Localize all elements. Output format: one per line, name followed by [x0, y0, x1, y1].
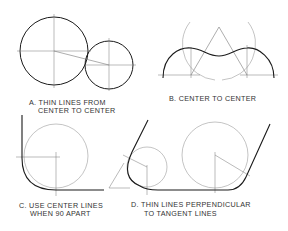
construction-arc-left [182, 22, 215, 80]
figure-a [17, 14, 136, 91]
center-to-apex-left [191, 27, 219, 75]
center-to-center-line [54, 51, 109, 65]
tangency-diagram [0, 0, 288, 231]
corner-fillet [22, 115, 104, 190]
construction-arc-right [222, 22, 256, 80]
tangent-arc-curve [163, 48, 274, 78]
figure-d [109, 120, 270, 195]
perp-line-small [123, 155, 147, 167]
perp-line-large [215, 155, 250, 176]
tangent-profile [128, 120, 271, 190]
center-to-apex-right [219, 27, 247, 75]
figure-c [16, 115, 104, 196]
caption-d-line2: TO TANGENT LINES [144, 209, 217, 218]
caption-b-line1: B. CENTER TO CENTER [169, 94, 256, 103]
caption-d-line1: D. THIN LINES PERPENDICULAR [131, 200, 251, 209]
caption-a-line2: CENTER TO CENTER [38, 106, 116, 115]
figure-b [158, 22, 278, 80]
caption-c-line2: WHEN 90 APART [30, 209, 91, 218]
